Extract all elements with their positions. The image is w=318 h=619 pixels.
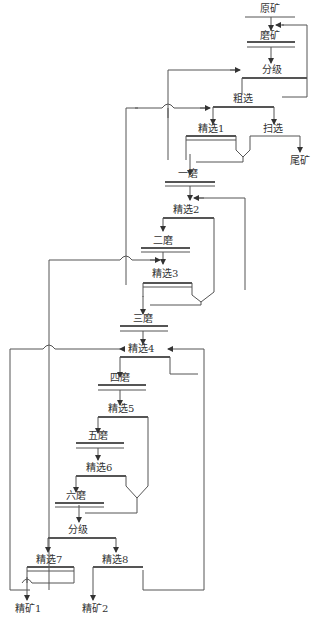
node-cleaner-2: 精选2 [173, 204, 199, 216]
node-cleaner-3: 精选3 [152, 268, 178, 280]
node-rougher: 粗选 [233, 93, 253, 105]
node-classify-1: 分级 [262, 64, 282, 76]
node-raw-ore: 原矿 [260, 3, 280, 15]
node-scavenger: 扫选 [263, 123, 283, 135]
node-concentrate-2: 精矿2 [82, 603, 108, 615]
node-concentrate-1: 精矿1 [15, 603, 41, 615]
node-cleaner-1: 精选1 [198, 123, 224, 135]
node-grinding: 磨矿 [260, 30, 280, 42]
node-grind-4: 四磨 [110, 372, 130, 384]
node-grind-5: 五磨 [88, 430, 108, 442]
node-grind-6: 六磨 [66, 490, 86, 502]
node-tailings: 尾矿 [290, 155, 310, 167]
node-grind-3: 三磨 [133, 313, 153, 325]
node-cleaner-8: 精选8 [102, 554, 128, 566]
node-grind-1: 一磨 [178, 168, 198, 180]
node-cleaner-7: 精选7 [36, 554, 62, 566]
flow-lines [0, 0, 318, 619]
node-cleaner-4: 精选4 [128, 343, 154, 355]
node-cleaner-5: 精选5 [108, 403, 134, 415]
node-grind-2: 二磨 [153, 235, 173, 247]
flowsheet-diagram: 原矿 磨矿 分级 粗选 精选1 扫选 尾矿 一磨 精选2 二磨 精选3 三磨 精… [0, 0, 318, 619]
node-classify-2: 分级 [68, 524, 88, 536]
node-cleaner-6: 精选6 [86, 462, 112, 474]
